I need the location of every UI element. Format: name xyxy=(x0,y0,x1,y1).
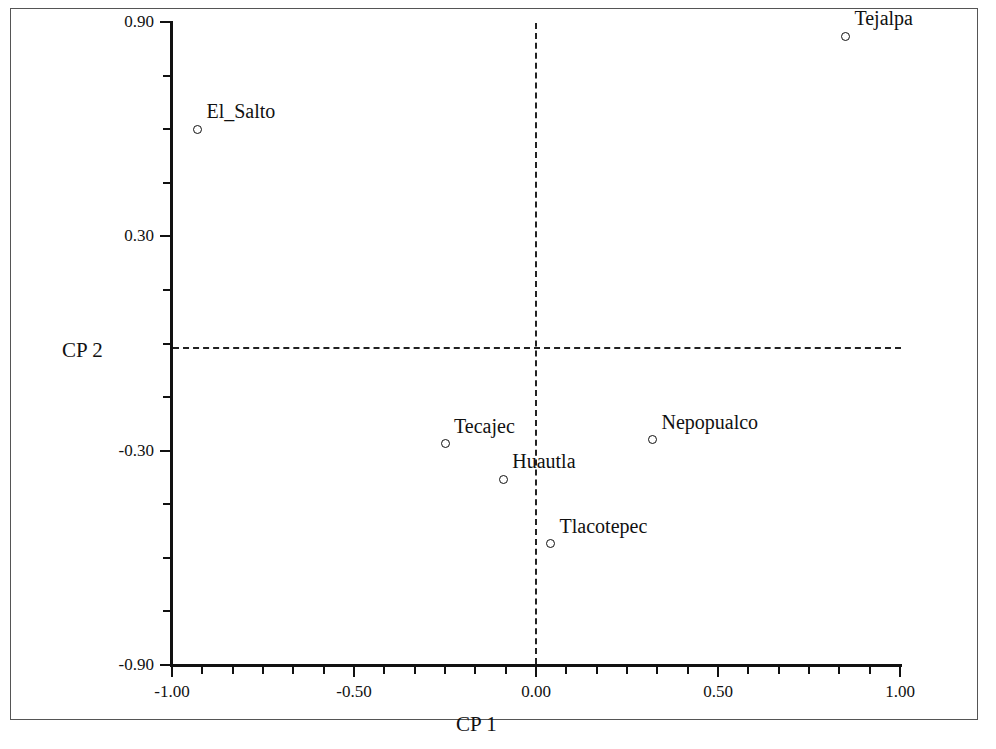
x-axis-minor-tick xyxy=(778,664,780,674)
x-axis-minor-tick xyxy=(232,664,234,674)
y-axis-title: CP 2 xyxy=(62,338,103,363)
x-axis-tick-label: -0.50 xyxy=(314,683,394,700)
figure-border xyxy=(10,8,978,720)
data-point-marker xyxy=(546,539,555,548)
scatter-plot-figure: 0.900.30-0.30-0.90-1.00-0.500.000.501.00… xyxy=(0,0,996,749)
x-axis-minor-tick xyxy=(444,664,446,674)
x-axis-minor-tick xyxy=(201,664,203,674)
x-axis-title: CP 1 xyxy=(456,712,497,737)
x-axis-minor-tick xyxy=(656,664,658,674)
data-point-marker xyxy=(499,475,508,484)
x-axis-minor-tick xyxy=(474,664,476,674)
x-axis-tick-label: 0.00 xyxy=(496,683,576,700)
y-axis-minor-tick xyxy=(163,289,173,291)
horizontal-reference-line xyxy=(173,347,901,349)
y-axis-tick-label: 0.90 xyxy=(84,13,154,30)
data-point-marker xyxy=(441,439,450,448)
x-axis-minor-tick xyxy=(869,664,871,674)
x-axis-minor-tick xyxy=(565,664,567,674)
x-axis-minor-tick xyxy=(838,664,840,674)
y-axis-minor-tick xyxy=(163,75,173,77)
x-axis-major-tick xyxy=(717,664,719,677)
y-axis-major-tick xyxy=(160,450,173,452)
y-axis-minor-tick xyxy=(163,610,173,612)
x-axis-major-tick xyxy=(899,664,901,677)
y-axis-minor-tick xyxy=(163,182,173,184)
y-axis-tick-label: 0.30 xyxy=(84,227,154,244)
x-axis-minor-tick xyxy=(747,664,749,674)
data-point-label: Tejalpa xyxy=(854,8,913,28)
y-axis-tick-label: -0.30 xyxy=(84,442,154,459)
x-axis-minor-tick xyxy=(505,664,507,674)
data-point-label: Tecajec xyxy=(454,416,515,436)
x-axis-major-tick xyxy=(171,664,173,677)
x-axis-minor-tick xyxy=(626,664,628,674)
y-axis-major-tick xyxy=(160,21,173,23)
data-point-label: El_Salto xyxy=(206,101,275,121)
x-axis-minor-tick xyxy=(808,664,810,674)
vertical-reference-line xyxy=(535,23,537,664)
x-axis-minor-tick xyxy=(596,664,598,674)
x-axis-major-tick xyxy=(353,664,355,677)
x-axis-minor-tick xyxy=(262,664,264,674)
x-axis-minor-tick xyxy=(414,664,416,674)
data-point-label: Huautla xyxy=(512,451,575,471)
data-point-label: Tlacotepec xyxy=(560,516,648,536)
data-point-marker xyxy=(841,32,850,41)
data-point-marker xyxy=(193,125,202,134)
x-axis-minor-tick xyxy=(687,664,689,674)
x-axis-minor-tick xyxy=(383,664,385,674)
y-axis-minor-tick xyxy=(163,343,173,345)
x-axis-tick-label: 1.00 xyxy=(860,683,940,700)
y-axis-minor-tick xyxy=(163,557,173,559)
data-point-label: Nepopualco xyxy=(661,412,758,432)
y-axis-major-tick xyxy=(160,235,173,237)
y-axis-minor-tick xyxy=(163,128,173,130)
x-axis-minor-tick xyxy=(292,664,294,674)
x-axis-tick-label: -1.00 xyxy=(132,683,212,700)
x-axis-major-tick xyxy=(535,664,537,677)
y-axis-tick-label: -0.90 xyxy=(84,656,154,673)
x-axis-minor-tick xyxy=(323,664,325,674)
y-axis-minor-tick xyxy=(163,396,173,398)
y-axis-minor-tick xyxy=(163,503,173,505)
x-axis-tick-label: 0.50 xyxy=(678,683,758,700)
